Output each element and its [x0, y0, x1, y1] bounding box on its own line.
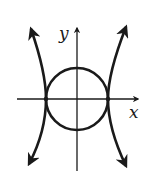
right-vertex-point: [106, 97, 110, 101]
y-axis-label: y: [58, 23, 69, 43]
graph: y x: [0, 0, 154, 175]
hyperbola-left-branch: [29, 29, 46, 164]
left-vertex-point: [44, 97, 48, 101]
x-axis-label: x: [129, 102, 139, 122]
hyperbola-right-branch: [108, 27, 126, 166]
